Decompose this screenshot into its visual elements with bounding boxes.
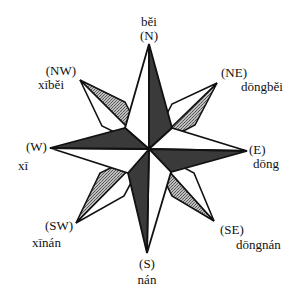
west-abbr: (W) xyxy=(26,140,58,154)
label-southeast: (SE) dōngnán xyxy=(220,223,301,252)
label-southwest: (SW) xīnán xyxy=(32,219,92,250)
southwest-abbr: (SW) xyxy=(45,219,92,233)
north-pinyin: běi xyxy=(124,15,174,29)
southeast-pinyin: dōngnán xyxy=(236,238,301,252)
label-northeast: (NE) dōngběi xyxy=(221,66,301,94)
label-northwest: (NW) xīběi xyxy=(20,64,78,92)
west-pinyin: xī xyxy=(18,159,58,173)
label-east: (E) dōng xyxy=(249,143,301,171)
northeast-abbr: (NE) xyxy=(221,66,301,80)
northwest-abbr: (NW) xyxy=(20,64,76,78)
label-north: běi (N) xyxy=(124,15,174,43)
northwest-pinyin: xīběi xyxy=(20,78,64,92)
southwest-pinyin: xīnán xyxy=(32,236,92,250)
northeast-pinyin: dōngběi xyxy=(241,80,301,94)
southeast-abbr: (SE) xyxy=(220,223,301,237)
east-abbr: (E) xyxy=(249,143,301,157)
south-pinyin: nán xyxy=(122,273,172,287)
south-abbr: (S) xyxy=(122,257,172,271)
north-abbr: (N) xyxy=(124,29,174,43)
label-west: (W) xī xyxy=(18,140,58,173)
east-pinyin: dōng xyxy=(253,157,301,171)
label-south: (S) nán xyxy=(122,257,172,287)
